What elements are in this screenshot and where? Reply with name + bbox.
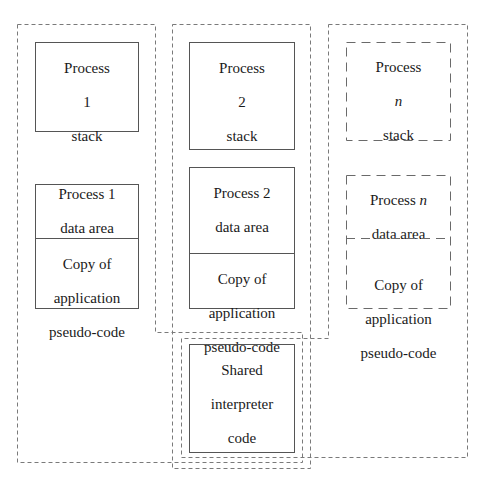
process-2-data-area: Process 2 data area [190,168,294,253]
process-n-memory-dashed-border [346,175,451,309]
label-line: Process 1 [58,186,115,203]
label-line: Copy of [49,256,125,273]
process-1-data-area: Process 1 data area [36,185,138,238]
label-line: Copy of [204,271,280,288]
process-2-stack: Process 2 stack [189,42,295,150]
process-2-stack-label: Process 2 stack [190,43,294,162]
label-line: 2 [219,94,265,111]
label-line: interpreter [211,396,273,413]
shared-interpreter-code: Shared interpreter code [189,344,295,453]
process-1-memory-block: Process 1 data area Copy of application … [35,184,139,309]
label-line: data area [58,220,115,237]
process-2-memory-block: Process 2 data area Copy of application … [189,167,295,309]
label-line: application [49,290,125,307]
label-line: stack [219,128,265,145]
process-1-stack: Process 1 stack [35,42,139,132]
label-line: 1 [64,94,110,111]
label-line: Process [64,60,110,77]
label-line: stack [64,128,110,145]
process-n-stack-dashed-border [346,42,451,141]
label-line: Process [219,60,265,77]
label-line: pseudo-code [49,324,125,341]
process-1-pseudo-code-copy: Copy of application pseudo-code [36,238,138,358]
label-line: Shared [211,362,273,379]
label-line: data area [213,219,270,236]
label-line: application [204,305,280,322]
label-line: code [211,430,273,447]
shared-interpreter-code-label: Shared interpreter code [190,345,294,464]
process-n-memory-block: Process n data area Copy of application … [346,175,451,309]
process-1-stack-label: Process 1 stack [36,43,138,162]
process-n-stack: Process n stack [346,42,451,141]
label-line: Process 2 [213,185,270,202]
label-line: application [361,311,437,328]
label-line: pseudo-code [361,345,437,362]
